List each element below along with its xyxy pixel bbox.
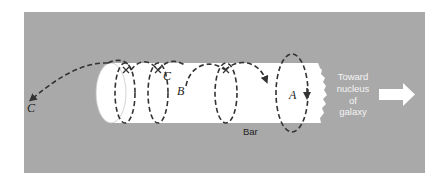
label-bar: Bar [243,126,258,137]
label-orbit-c-inner: C [163,69,172,83]
direction-label-line1: Toward [338,71,369,82]
label-orbit-a: A [288,88,297,102]
right-arrow-icon [379,83,415,106]
direction-label-line2: nucleus [337,83,370,94]
galactic-bar-diagram: C C B A Bar Toward nucleus of galaxy [0,0,447,182]
direction-label-line4: galaxy [339,106,367,117]
direction-label: Toward nucleus of galaxy [337,71,370,117]
label-orbit-c-outer: C [27,101,36,115]
label-orbit-b: B [177,84,185,98]
direction-label-line3: of [349,95,357,106]
